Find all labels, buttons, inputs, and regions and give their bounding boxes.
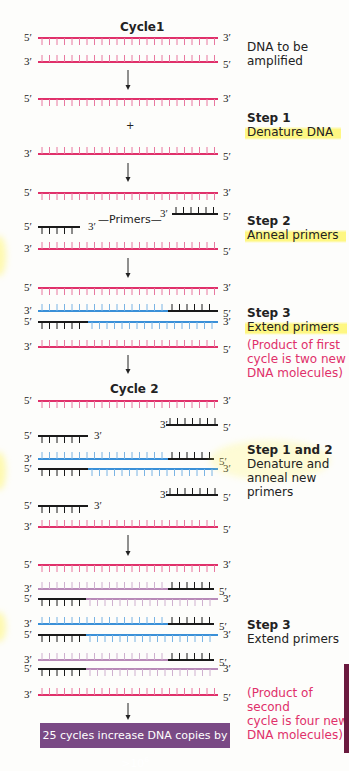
- plus-sign: +: [126, 120, 134, 131]
- dna-strand: [166, 418, 218, 425]
- dna-strand: [38, 340, 218, 347]
- strand-end-left: 5′: [24, 628, 32, 640]
- note-line: DNA molecules): [247, 366, 343, 380]
- strand-end-right: 3′: [223, 628, 231, 640]
- strand-end-left: 3′: [24, 242, 32, 254]
- note-line: (Product of second: [247, 686, 313, 714]
- strand-end-right: 3′: [223, 92, 231, 104]
- note-line: cycle is four new: [247, 714, 348, 728]
- strand-end-left: 3′: [24, 55, 32, 67]
- note-line: cycle is two new: [247, 352, 346, 366]
- dna-strand: [38, 565, 218, 572]
- dna-strand: [38, 401, 218, 408]
- dna-strand: [38, 452, 214, 459]
- step-description: Extend primers: [245, 320, 347, 335]
- dna-strand: [38, 506, 88, 513]
- step-1-label: Step 1 Denature DNA: [247, 111, 341, 139]
- strand-end-left: 5′: [24, 31, 32, 43]
- dna-strand: [38, 304, 218, 311]
- primers-leader-line-right: —: [151, 213, 162, 226]
- dna-strand: [38, 147, 218, 154]
- dna-strand: [166, 488, 218, 495]
- dna-strand: [38, 38, 218, 45]
- step-title: Step 3: [247, 618, 339, 632]
- label-line: DNA to be: [247, 40, 308, 54]
- step-description-line: Denature and: [247, 457, 329, 471]
- down-arrow-icon: [126, 535, 131, 556]
- strand-end-right: 3′: [94, 429, 102, 441]
- summary-exponent: 6: [144, 756, 148, 764]
- strand-end-left: 5′: [24, 429, 32, 441]
- down-arrow-icon: [126, 163, 131, 182]
- dna-strand: [38, 322, 218, 329]
- label-dna-to-amplify: DNA to be amplified: [247, 40, 308, 68]
- cycle-2-title: Cycle 2: [110, 382, 159, 396]
- dna-strand: [38, 688, 218, 695]
- strand-end-left: 5′: [24, 220, 32, 232]
- page-edge-bar: [344, 664, 349, 753]
- strand-end-left: 3′: [24, 520, 32, 532]
- dna-strand: [38, 582, 214, 589]
- step-2-label: Step 2 Anneal primers: [247, 214, 346, 242]
- strand-end-right: 5′: [223, 691, 231, 703]
- strand-end-left: 3′: [24, 688, 32, 700]
- dna-strand: [38, 193, 218, 200]
- dna-strand: [38, 635, 218, 642]
- strand-end-right: 3′: [223, 315, 231, 327]
- down-arrow-icon: [126, 355, 131, 374]
- strand-end-right: 3′: [223, 558, 231, 570]
- summary-box: 25 cycles increase DNA copies by >106: [40, 723, 230, 748]
- strand-end-left: 5′: [24, 394, 32, 406]
- note-cycle2-product: (Product of second cycle is four new DNA…: [247, 686, 349, 742]
- dna-strand: [38, 669, 218, 676]
- step-3-cycle2-label: Step 3 Extend primers: [247, 618, 339, 646]
- strand-end-right: 5′: [223, 523, 231, 535]
- dna-strand: [38, 227, 80, 234]
- dna-strand: [38, 288, 218, 295]
- step-description: Anneal primers: [245, 228, 346, 243]
- dna-strand: [38, 99, 218, 106]
- step-title: Step 3: [247, 306, 347, 320]
- strand-end-right: 3′: [223, 592, 231, 604]
- strand-end-right: 5′: [223, 343, 231, 355]
- strand-end-right: 3′: [94, 499, 102, 511]
- dna-strand: [38, 55, 218, 62]
- step-title: Step 1 and 2: [247, 443, 333, 457]
- dna-strand: [38, 617, 214, 624]
- dna-strand: [172, 207, 218, 214]
- step-title: Step 2: [247, 214, 346, 228]
- step-description: Denature DNA: [245, 125, 341, 140]
- dna-strand: [38, 469, 218, 476]
- strand-end-right: 3′: [223, 186, 231, 198]
- strand-end-left: 5′: [24, 281, 32, 293]
- strand-end-right: 3′: [223, 31, 231, 43]
- note-cycle1-product: (Product of first cycle is two new DNA m…: [247, 338, 346, 380]
- strand-end-right: 3′: [223, 281, 231, 293]
- strand-end-left: 5′: [24, 662, 32, 674]
- note-line: (Product of first: [247, 338, 340, 352]
- strand-end-right: 3′: [223, 662, 231, 674]
- dna-strand: [38, 520, 218, 527]
- step-description-line: anneal new: [247, 471, 316, 485]
- primers-label-text: Primers: [109, 213, 151, 226]
- step-description: Extend primers: [247, 632, 339, 646]
- strand-end-right: 5′: [223, 210, 231, 222]
- strand-end-right: 5′: [223, 150, 231, 162]
- dna-strand: [38, 242, 218, 249]
- note-line: DNA molecules): [247, 728, 343, 742]
- dna-strand: [38, 653, 214, 660]
- step-title: Step 1: [247, 111, 341, 125]
- down-arrow-icon: [126, 70, 131, 90]
- strand-end-left: 3′: [160, 418, 168, 430]
- primers-label: —Primers—: [98, 213, 162, 226]
- dna-strand: [38, 599, 218, 606]
- strand-end-left: 5′: [24, 462, 32, 474]
- step-description-line: primers: [247, 485, 293, 499]
- strand-end-right: 5′: [223, 421, 231, 433]
- cycle-1-title: Cycle1: [120, 20, 164, 34]
- strand-end-left: 5′: [24, 92, 32, 104]
- primers-leader-line-left: —: [98, 213, 109, 226]
- strand-end-left: 5′: [24, 499, 32, 511]
- label-line: amplified: [247, 54, 303, 68]
- strand-end-left: 3′: [160, 488, 168, 500]
